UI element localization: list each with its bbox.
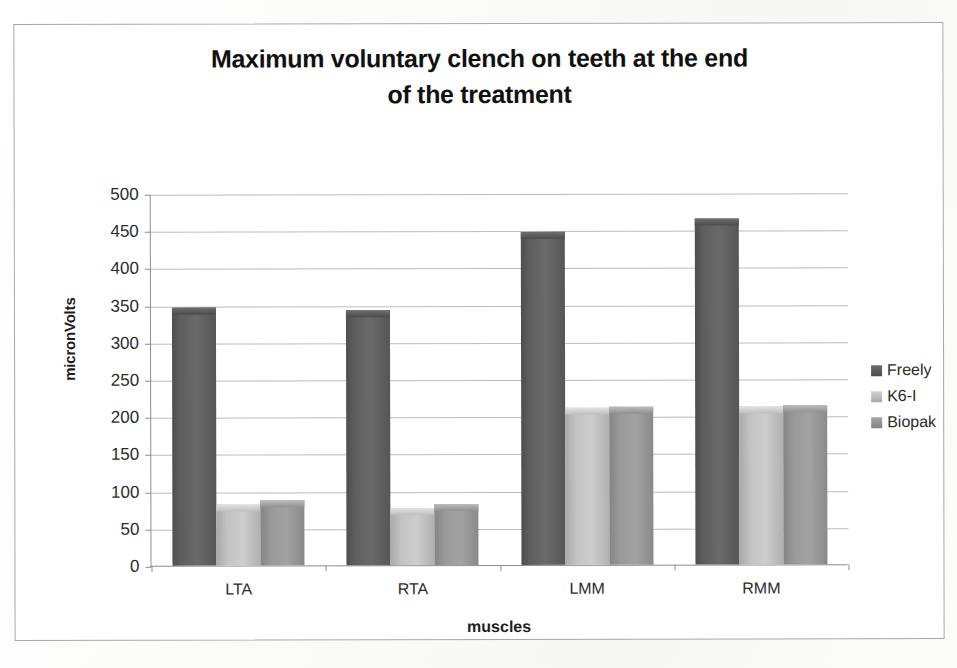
y-axis-tick-label: 450 <box>110 222 138 242</box>
legend-item-k6-i[interactable]: K6-I <box>871 383 947 409</box>
bar-biopak-rmm[interactable] <box>783 405 827 564</box>
y-axis-title: micronVolts <box>61 297 78 380</box>
bar-group <box>499 193 674 565</box>
y-axis-tick-label: 200 <box>111 408 139 428</box>
bar-top-highlight <box>260 500 304 507</box>
legend-label: K6-I <box>887 387 916 405</box>
bar-top-highlight <box>216 504 260 511</box>
bar-top-highlight <box>783 405 827 412</box>
bar-k6-i-rmm[interactable] <box>739 407 783 565</box>
y-axis-tick-label: 400 <box>110 259 138 279</box>
x-axis-label-lmm: LMM <box>500 580 674 598</box>
y-axis-tick-label: 150 <box>111 445 139 465</box>
y-axis-tick-label: 100 <box>111 482 139 502</box>
chart-frame: Maximum voluntary clench on teeth at the… <box>13 22 944 641</box>
legend-swatch-icon <box>871 417 882 428</box>
bar-top-highlight <box>520 232 564 239</box>
bar-top-highlight <box>435 504 479 511</box>
chart-title: Maximum voluntary clench on teeth at the… <box>84 39 874 113</box>
x-axis-tick <box>848 564 849 570</box>
legend-label: Freely <box>887 361 931 379</box>
y-axis-tick-label: 0 <box>130 557 140 577</box>
bar-freely-rta[interactable] <box>346 310 391 565</box>
bar-biopak-rta[interactable] <box>435 504 479 565</box>
legend-item-freely[interactable]: Freely <box>871 357 947 383</box>
bar-group <box>325 193 500 565</box>
legend-item-biopak[interactable]: Biopak <box>871 409 947 435</box>
bar-top-highlight <box>172 307 216 314</box>
bar-k6-i-rta[interactable] <box>391 508 435 565</box>
bar-freely-lta[interactable] <box>172 307 217 565</box>
bar-freely-lmm[interactable] <box>520 232 565 565</box>
x-axis-label-lta: LTA <box>152 580 326 598</box>
y-axis-tick-label: 350 <box>111 296 139 316</box>
legend-label: Biopak <box>887 413 936 431</box>
bar-top-highlight <box>565 408 609 415</box>
x-axis-title: muscles <box>151 617 848 636</box>
x-axis-tick <box>500 565 501 571</box>
bar-biopak-lmm[interactable] <box>609 406 653 565</box>
bar-top-highlight <box>391 508 435 515</box>
bar-k6-i-lta[interactable] <box>216 504 260 565</box>
y-axis-tick-label: 250 <box>111 371 139 391</box>
plot-area: 050100150200250300350400450500LTARTALMMR… <box>150 193 848 566</box>
y-axis-tick-label: 500 <box>110 185 138 205</box>
x-axis-tick <box>151 566 152 572</box>
legend-swatch-icon <box>871 365 882 376</box>
chart-legend: FreelyK6-IBiopak <box>871 357 947 435</box>
bar-freely-rmm[interactable] <box>695 219 740 565</box>
x-axis-tick <box>326 565 327 571</box>
y-axis-tick-label: 50 <box>120 520 139 540</box>
bar-top-highlight <box>739 407 783 414</box>
legend-swatch-icon <box>871 391 882 402</box>
chart-title-line-2: of the treatment <box>84 75 874 113</box>
chart-title-line-1: Maximum voluntary clench on teeth at the… <box>84 39 874 77</box>
bar-top-highlight <box>609 406 653 413</box>
bar-group <box>673 192 848 564</box>
x-axis-tick <box>674 565 675 571</box>
bar-k6-i-lmm[interactable] <box>565 408 609 565</box>
y-axis-tick-label: 300 <box>111 334 139 354</box>
x-axis-label-rta: RTA <box>326 580 500 598</box>
bar-top-highlight <box>346 310 390 317</box>
bar-top-highlight <box>695 219 739 226</box>
x-axis-label-rmm: RMM <box>674 579 848 597</box>
bar-biopak-lta[interactable] <box>260 500 304 566</box>
bar-group <box>151 193 326 565</box>
